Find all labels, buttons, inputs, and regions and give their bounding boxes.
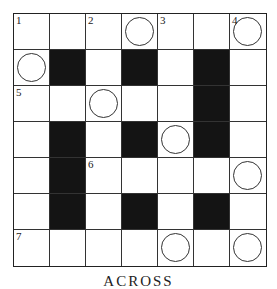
circle-marker-icon (161, 233, 190, 262)
answer-cell[interactable] (86, 122, 122, 158)
clue-number: 3 (160, 14, 166, 26)
answer-cell[interactable] (14, 50, 50, 86)
circle-marker-icon (17, 53, 46, 82)
answer-cell[interactable]: 3 (158, 14, 194, 50)
answer-cell[interactable] (158, 122, 194, 158)
answer-cell[interactable]: 5 (14, 86, 50, 122)
black-square (194, 86, 230, 122)
answer-cell[interactable] (50, 14, 86, 50)
answer-cell[interactable] (14, 194, 50, 230)
answer-cell[interactable] (50, 86, 86, 122)
black-square (194, 50, 230, 86)
black-square (50, 158, 86, 194)
answer-cell[interactable] (86, 194, 122, 230)
answer-cell[interactable] (158, 50, 194, 86)
answer-cell[interactable] (194, 14, 230, 50)
answer-cell[interactable] (86, 86, 122, 122)
answer-cell[interactable] (230, 158, 266, 194)
clue-number: 5 (16, 86, 22, 98)
black-square (122, 122, 158, 158)
black-square (194, 122, 230, 158)
answer-cell[interactable] (158, 86, 194, 122)
clue-number: 7 (16, 230, 22, 242)
black-square (50, 122, 86, 158)
circle-marker-icon (89, 89, 118, 118)
circle-marker-icon (233, 161, 262, 190)
answer-cell[interactable] (230, 194, 266, 230)
answer-cell[interactable]: 7 (14, 230, 50, 266)
circle-marker-icon (161, 125, 190, 154)
clue-number: 1 (16, 14, 22, 26)
answer-cell[interactable] (86, 230, 122, 266)
answer-cell[interactable] (14, 158, 50, 194)
answer-cell[interactable] (194, 230, 230, 266)
circle-marker-icon (233, 233, 262, 262)
answer-cell[interactable] (230, 230, 266, 266)
answer-cell[interactable] (194, 158, 230, 194)
answer-cell[interactable] (50, 230, 86, 266)
answer-cell[interactable] (122, 86, 158, 122)
answer-cell[interactable] (122, 14, 158, 50)
black-square (50, 50, 86, 86)
clue-number: 4 (232, 14, 238, 26)
answer-cell[interactable] (158, 158, 194, 194)
answer-cell[interactable] (14, 122, 50, 158)
answer-cell[interactable] (122, 230, 158, 266)
answer-cell[interactable] (86, 50, 122, 86)
crossword-grid: 1234567 (13, 13, 267, 267)
answer-cell[interactable] (122, 158, 158, 194)
black-square (122, 194, 158, 230)
answer-cell[interactable]: 1 (14, 14, 50, 50)
clue-number: 6 (88, 158, 94, 170)
answer-cell[interactable]: 2 (86, 14, 122, 50)
answer-cell[interactable]: 6 (86, 158, 122, 194)
answer-cell[interactable] (230, 122, 266, 158)
answer-cell[interactable]: 4 (230, 14, 266, 50)
answer-cell[interactable] (158, 194, 194, 230)
black-square (50, 194, 86, 230)
black-square (122, 50, 158, 86)
answer-cell[interactable] (158, 230, 194, 266)
clue-number: 2 (88, 14, 94, 26)
circle-marker-icon (125, 17, 154, 46)
answer-cell[interactable] (230, 50, 266, 86)
black-square (194, 194, 230, 230)
across-heading: ACROSS (0, 274, 277, 289)
answer-cell[interactable] (230, 86, 266, 122)
